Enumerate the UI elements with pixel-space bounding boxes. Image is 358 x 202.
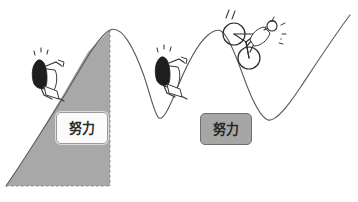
sweat-marks-icon-2 [157,45,171,52]
figure-cyclist-downhill [223,10,286,69]
badge-effort-gray: 努力 [200,113,252,145]
figure-climber-first-hill [32,48,64,101]
illustration-canvas: 努力 努力 [0,0,358,202]
climber-push-arm [46,62,62,66]
figure-climber-second-hill [155,45,187,99]
badge-effort-gray-text: 努力 [213,122,239,136]
climber-head-hair [32,60,47,89]
badge-effort-white: 努力 [56,112,108,144]
speed-lines-icon [226,10,235,19]
sweat-marks-icon [34,48,48,55]
climber2-push-arm [169,59,185,63]
terrain-illustration [0,0,358,202]
climber2-head-hair [155,57,170,86]
cyclist-torso [250,27,270,46]
badge-effort-white-text: 努力 [69,121,95,135]
